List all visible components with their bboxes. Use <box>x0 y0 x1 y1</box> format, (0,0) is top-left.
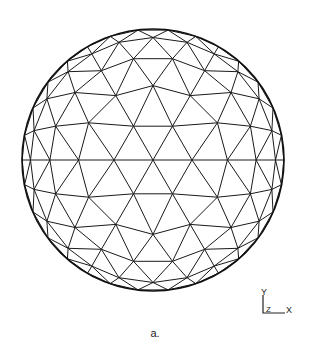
mesh-edges <box>22 30 284 290</box>
figure-caption: a. <box>0 327 310 339</box>
axis-triad-icon <box>255 290 295 320</box>
